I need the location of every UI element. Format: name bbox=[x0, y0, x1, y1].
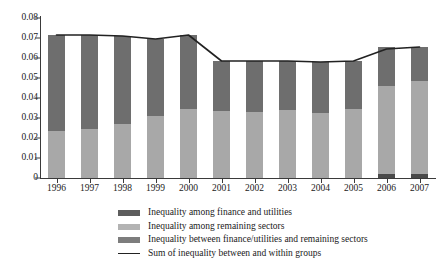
plot-area: 0.080.070.060.050.040.030.020.010 199619… bbox=[0, 0, 442, 200]
stacked-bar-chart-figure: 0.080.070.060.050.040.030.020.010 199619… bbox=[0, 0, 442, 270]
legend-label: Inequality between finance/utilities and… bbox=[148, 233, 368, 247]
y-axis-labels: 0.080.070.060.050.040.030.020.010 bbox=[0, 0, 38, 200]
line-swatch bbox=[118, 253, 140, 255]
legend-label: Sum of inequality between and within gro… bbox=[148, 247, 321, 261]
x-axis-tick-label: 1999 bbox=[146, 183, 165, 194]
legend-item: Inequality among remaining sectors bbox=[118, 220, 438, 234]
x-axis-tick-label: 2000 bbox=[179, 183, 198, 194]
legend-item: Inequality among finance and utilities bbox=[118, 206, 438, 220]
x-axis-tick-label: 1996 bbox=[47, 183, 66, 194]
legend-label: Inequality among finance and utilities bbox=[148, 206, 292, 220]
x-axis-tick-label: 2004 bbox=[311, 183, 330, 194]
light-gray-swatch bbox=[118, 224, 140, 230]
x-axis-labels: 1996199719981999200020012002200320042005… bbox=[40, 183, 436, 199]
chart-legend: Inequality among finance and utilitiesIn… bbox=[118, 206, 438, 266]
x-axis-tick-label: 2002 bbox=[245, 183, 264, 194]
legend-item: Sum of inequality between and within gro… bbox=[118, 247, 438, 261]
legend-item: Inequality between finance/utilities and… bbox=[118, 233, 438, 247]
medium-gray-swatch bbox=[118, 237, 140, 243]
dark-gray-swatch bbox=[118, 210, 140, 216]
x-axis-tick-label: 2003 bbox=[278, 183, 297, 194]
legend-label: Inequality among remaining sectors bbox=[148, 220, 284, 234]
x-axis-tick-label: 1997 bbox=[80, 183, 99, 194]
x-axis-tick-label: 2007 bbox=[410, 183, 429, 194]
x-axis-tick-label: 2006 bbox=[377, 183, 396, 194]
x-axis-tick-label: 1998 bbox=[113, 183, 132, 194]
x-axis-tick-label: 2005 bbox=[344, 183, 363, 194]
x-axis-tick-label: 2001 bbox=[212, 183, 231, 194]
sum-inequality-line bbox=[40, 0, 436, 178]
x-axis-line bbox=[40, 178, 436, 179]
